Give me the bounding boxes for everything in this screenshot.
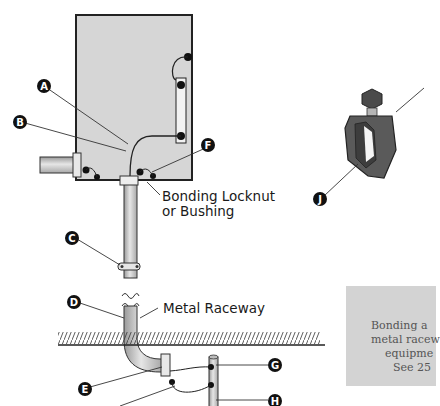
callout-e: E	[82, 384, 89, 395]
callout-j: J	[317, 194, 322, 205]
callout-a: A	[40, 81, 48, 92]
note-line-1: Bonding a	[371, 319, 428, 332]
callout-c: C	[68, 233, 75, 244]
callout-d: D	[70, 297, 78, 308]
callout-g: G	[271, 360, 279, 371]
side-conduit	[40, 153, 81, 177]
note-line-3: equipme	[385, 347, 433, 360]
note-line-4: See 25	[393, 361, 431, 374]
callout-f: F	[205, 140, 212, 151]
callout-h: H	[271, 396, 279, 406]
bushing-label: or Bushing	[162, 204, 234, 219]
ground-line	[58, 332, 325, 345]
ground-rod	[169, 355, 218, 406]
enclosure-box	[76, 15, 192, 180]
note-line-2: metal racew	[371, 333, 440, 346]
bonding-locknut-label: Bonding Locknut	[162, 189, 275, 204]
callout-b: B	[16, 117, 24, 128]
ground-clamp	[345, 89, 396, 178]
metal-raceway-label: Metal Raceway	[163, 301, 265, 316]
